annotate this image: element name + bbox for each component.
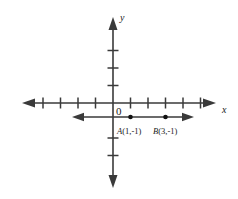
x-axis-label: x	[222, 105, 226, 115]
coordinate-plane-svg	[0, 0, 238, 199]
x-axis-left-arrowhead	[22, 99, 35, 108]
point-a-label: A(1,-1)	[117, 127, 141, 136]
line-right-arrowhead	[182, 113, 194, 121]
line-left-arrowhead	[72, 113, 84, 121]
origin-label: 0	[116, 106, 122, 117]
point-a-marker	[128, 115, 133, 120]
y-axis-top-arrowhead	[109, 17, 118, 30]
point-b-coords: (3,-1)	[158, 126, 177, 136]
coordinate-plane-figure: 0 x y A(1,-1) B(3,-1)	[0, 0, 238, 199]
point-b-label: B(3,-1)	[153, 127, 177, 136]
x-axis-right-arrowhead	[203, 99, 216, 108]
point-a-coords: (1,-1)	[122, 126, 141, 136]
point-b-marker	[163, 115, 168, 120]
y-axis-label: y	[120, 13, 124, 23]
y-axis-bottom-arrowhead	[109, 175, 118, 188]
